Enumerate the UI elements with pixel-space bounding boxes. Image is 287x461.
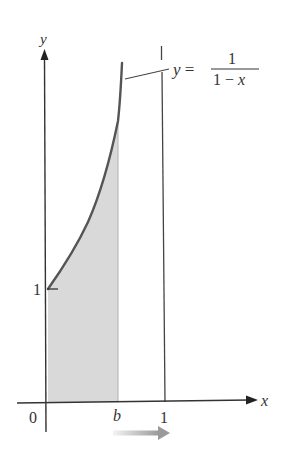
y-axis <box>45 58 47 432</box>
improper-integral-diagram: y x y = 1 1 − x 1 0 b 1 <box>0 0 287 461</box>
x-tick-label-1: 1 <box>160 409 168 426</box>
motion-arrow-icon <box>113 426 170 440</box>
x-axis-arrow-icon <box>246 396 258 405</box>
asymptote-line <box>162 72 165 402</box>
equation-lhs: y = <box>171 60 194 79</box>
x-tick-label-b: b <box>113 407 121 424</box>
equation-numerator: 1 <box>228 50 236 67</box>
y-axis-label: y <box>38 31 47 47</box>
origin-label: 0 <box>29 409 37 426</box>
y-tick-label-1: 1 <box>33 281 41 298</box>
equation-denominator: 1 − x <box>213 71 245 88</box>
x-axis-label: x <box>260 392 268 409</box>
y-axis-arrow-icon <box>41 49 49 60</box>
